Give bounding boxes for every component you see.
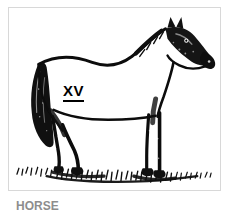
horse-tail-icon [31,62,53,147]
figure-caption: HORSE [16,200,216,211]
horse-illustration [9,8,220,190]
figure-page: XV HORSE [0,0,237,211]
plate-number-label: XV [63,83,84,102]
illustration-frame: XV [8,7,221,191]
horse-rear-legs [51,111,84,175]
horse-head-icon [136,17,215,69]
horse-front-legs [141,99,165,178]
grass-ground-icon [17,167,211,182]
